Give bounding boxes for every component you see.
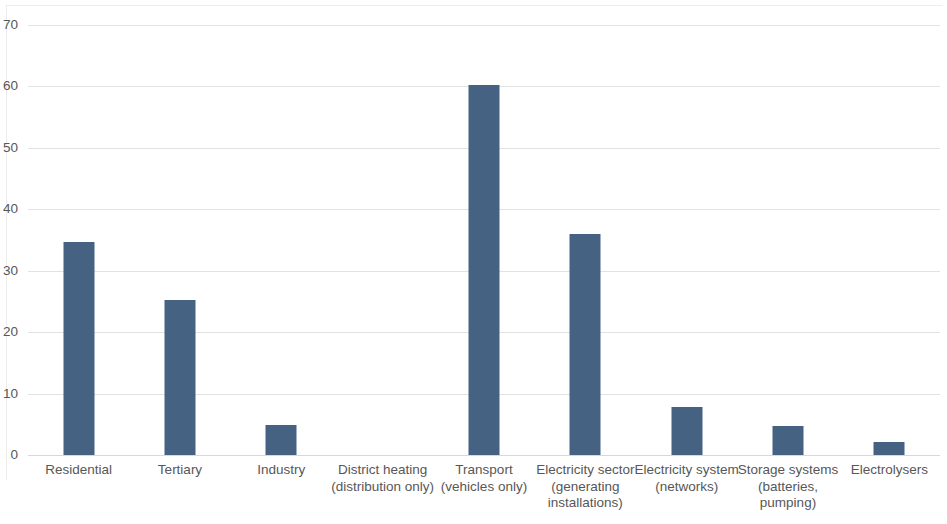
bar[interactable]: [63, 242, 94, 455]
x-axis-tick-label-line: (networks): [635, 479, 739, 496]
x-axis-tick-label-line: (vehicles only): [441, 479, 527, 496]
y-axis-tick-label: 10: [3, 387, 18, 401]
y-axis-tick-label: 40: [3, 203, 18, 217]
bar[interactable]: [469, 85, 500, 455]
x-axis-tick-label-line: Industry: [257, 462, 305, 477]
gridline-70: [28, 25, 940, 26]
chart-frame-left-border: [6, 5, 7, 480]
x-axis-tick-label: District heating(distribution only): [331, 462, 434, 495]
x-axis-tick-label-line: pumping): [738, 495, 839, 512]
y-axis-tick-label: 20: [3, 325, 18, 339]
x-axis-tick-label-line: Residential: [45, 462, 112, 477]
bar[interactable]: [266, 425, 297, 455]
x-axis-tick-label: Electrolysers: [851, 462, 928, 479]
x-axis-tick-label-line: (distribution only): [331, 479, 434, 496]
x-axis-category-labels: ResidentialTertiaryIndustryDistrict heat…: [28, 462, 940, 524]
x-axis-tick-label-line: District heating: [338, 462, 427, 477]
x-axis-tick-label: Residential: [45, 462, 112, 479]
x-axis-tick-label-line: Storage systems: [738, 462, 839, 477]
plot-area: 010203040506070: [28, 25, 940, 455]
bar[interactable]: [671, 407, 702, 455]
gridline-0: [28, 455, 940, 456]
x-axis-tick-label-line: installations): [536, 495, 634, 512]
x-axis-tick-label: Electricity system(networks): [635, 462, 739, 495]
y-axis-tick-label: 0: [10, 448, 18, 462]
y-axis-tick-label: 50: [3, 141, 18, 155]
bar[interactable]: [874, 442, 905, 456]
x-axis-tick-label: Tertiary: [158, 462, 202, 479]
bar[interactable]: [570, 234, 601, 455]
chart-frame-top-border: [6, 5, 943, 6]
y-axis-tick-label: 70: [3, 18, 18, 32]
x-axis-tick-label-line: Electrolysers: [851, 462, 928, 477]
y-axis-tick-label: 30: [3, 264, 18, 278]
x-axis-tick-label: Electricity sector(generatinginstallatio…: [536, 462, 634, 512]
x-axis-tick-label: Storage systems(batteries,pumping): [738, 462, 839, 512]
x-axis-tick-label-line: (generating: [536, 479, 634, 496]
bar-chart: 010203040506070 ResidentialTertiaryIndus…: [0, 0, 947, 524]
x-axis-tick-label-line: (batteries,: [738, 479, 839, 496]
x-axis-tick-label-line: Electricity system: [635, 462, 739, 477]
x-axis-tick-label: Transport(vehicles only): [441, 462, 527, 495]
bar[interactable]: [165, 300, 196, 455]
x-axis-tick-label: Industry: [257, 462, 305, 479]
x-axis-tick-label-line: Tertiary: [158, 462, 202, 477]
x-axis-tick-label-line: Transport: [455, 462, 512, 477]
bar[interactable]: [773, 426, 804, 455]
x-axis-tick-label-line: Electricity sector: [536, 462, 634, 477]
y-axis-tick-label: 60: [3, 80, 18, 94]
